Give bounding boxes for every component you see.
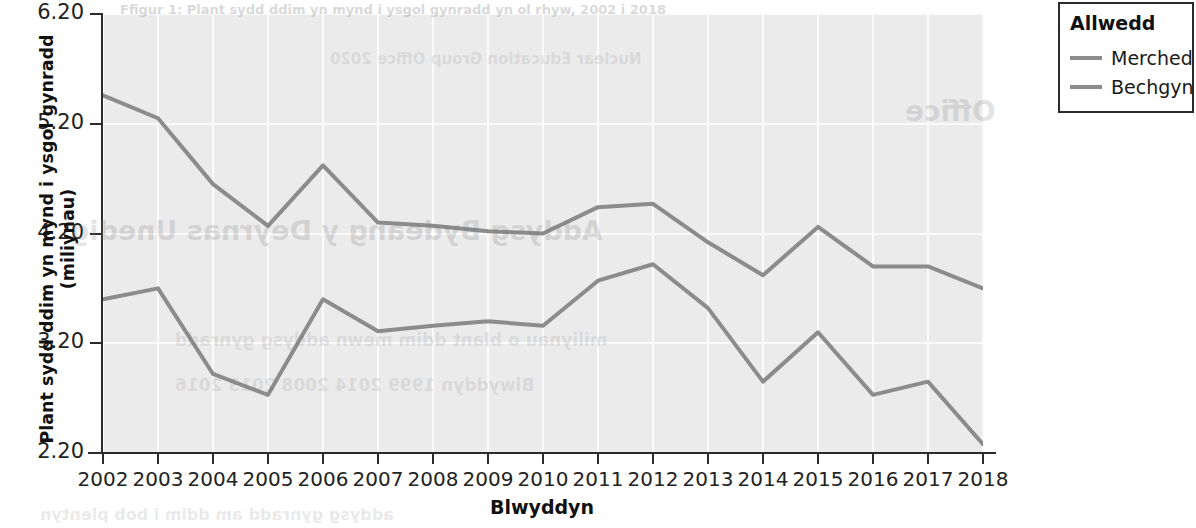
x-axis-tick-label: 2010 — [513, 467, 573, 491]
x-axis-tick — [652, 453, 654, 464]
x-axis-tick-label: 2009 — [458, 467, 518, 491]
x-axis-tick-label: 2015 — [788, 467, 848, 491]
legend-item-merched[interactable]: Merched — [1070, 43, 1192, 72]
y-axis-tick — [90, 13, 102, 15]
x-axis-tick-label: 2004 — [183, 467, 243, 491]
legend: Allwedd MerchedBechgyn — [1058, 2, 1194, 113]
legend-item-label: Bechgyn — [1111, 76, 1194, 98]
y-axis-tick — [90, 342, 102, 344]
x-axis-tick — [762, 453, 764, 464]
x-axis-tick-label: 2012 — [623, 467, 683, 491]
x-axis-tick-label: 2003 — [128, 467, 188, 491]
x-axis-tick — [377, 453, 379, 464]
x-axis-tick — [267, 453, 269, 464]
x-axis-tick-label: 2018 — [953, 467, 1013, 491]
x-axis-tick-label: 2011 — [568, 467, 628, 491]
x-axis-tick — [927, 453, 929, 464]
y-axis-tick — [90, 233, 102, 235]
series-container — [103, 14, 983, 453]
x-axis-tick — [982, 453, 984, 464]
x-axis-tick — [212, 453, 214, 464]
legend-item-bechgyn[interactable]: Bechgyn — [1070, 72, 1192, 101]
legend-item-label: Merched — [1111, 47, 1193, 69]
x-axis-tick-label: 2005 — [238, 467, 298, 491]
y-axis-tick-label: 6.20 — [37, 0, 84, 24]
x-axis-tick — [432, 453, 434, 464]
x-axis-tick — [102, 453, 104, 464]
x-axis-tick-label: 2016 — [843, 467, 903, 491]
legend-line-swatch — [1070, 85, 1102, 89]
x-axis-tick — [597, 453, 599, 464]
x-axis-tick-label: 2014 — [733, 467, 793, 491]
x-axis-tick-label: 2002 — [73, 467, 133, 491]
x-axis-tick-label: 2008 — [403, 467, 463, 491]
legend-line-swatch — [1070, 56, 1102, 60]
x-axis-tick-label: 2006 — [293, 467, 353, 491]
x-axis-tick — [322, 453, 324, 464]
y-axis-tick — [90, 452, 102, 454]
x-axis-tick — [542, 453, 544, 464]
legend-items: MerchedBechgyn — [1070, 43, 1192, 101]
x-axis-title: Blwyddyn — [0, 496, 1196, 518]
x-axis-tick — [817, 453, 819, 464]
x-axis-tick-label: 2017 — [898, 467, 958, 491]
series-line-merched — [103, 95, 983, 288]
x-axis-tick-label: 2013 — [678, 467, 738, 491]
y-axis-tick — [90, 123, 102, 125]
x-axis-tick-label: 2007 — [348, 467, 408, 491]
series-line-bechgyn — [103, 264, 983, 444]
legend-title: Allwedd — [1070, 12, 1192, 34]
x-axis-tick — [157, 453, 159, 464]
x-axis-tick — [487, 453, 489, 464]
x-axis-tick — [707, 453, 709, 464]
y-axis-title: Plant sydd ddim yn mynd i ysgol gynradd … — [37, 29, 79, 449]
x-axis-tick — [872, 453, 874, 464]
